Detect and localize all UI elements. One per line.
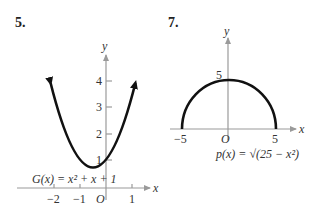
y-tick-3: 3 — [96, 100, 102, 114]
x-tick-neg2: −2 — [47, 192, 60, 206]
function-label-G: G(x) = x² + x + 1 — [32, 172, 117, 186]
origin-label-7: O — [221, 132, 230, 146]
parabola-curve — [51, 83, 136, 168]
y-tick-2: 2 — [96, 127, 102, 141]
origin-label: O — [96, 192, 105, 206]
semicircle-curve — [182, 80, 276, 129]
graph-5: y x 4 3 2 1 −2 −1 1 O G(x) = x² + x + 1 … — [0, 0, 314, 220]
y-tick-4: 4 — [96, 74, 102, 88]
x-tick-5: 5 — [272, 132, 278, 146]
x-axis-label: x — [152, 181, 159, 195]
x-tick-neg5: −5 — [174, 132, 187, 146]
y-tick-1: 1 — [96, 153, 102, 167]
x-tick-1: 1 — [129, 192, 135, 206]
x-axis-label-7: x — [298, 122, 305, 136]
y-axis-label-7: y — [223, 24, 230, 38]
x-tick-neg1: −1 — [73, 192, 86, 206]
y-tick-5: 5 — [216, 68, 222, 82]
y-axis-label: y — [101, 39, 108, 53]
function-label-p: p(x) = √(25 − x²) — [215, 147, 299, 161]
